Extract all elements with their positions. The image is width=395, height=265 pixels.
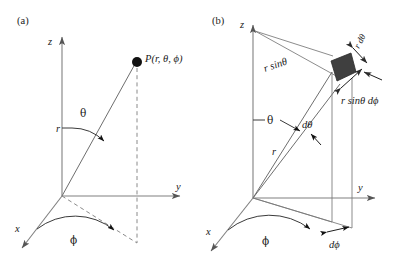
panel-a-theta-arc: [72, 128, 104, 141]
panel-a-z-axis-label: z: [47, 36, 52, 47]
panel-b-surface-patch: [331, 53, 356, 81]
panel-b-radius-label: r: [272, 146, 277, 157]
panel-b-dtheta-label: dθ: [302, 119, 312, 130]
panel-b-r-dtheta-label: r dθ: [352, 32, 368, 50]
panel-a-radius-label: r: [56, 123, 61, 134]
panel-b-z-axis-label: z: [239, 19, 244, 30]
panel-b-rsin-theta-label: r sinθ: [262, 56, 288, 74]
panel-b-x-axis: [211, 198, 253, 251]
panel-b-label: (b): [212, 15, 225, 27]
panel-a-phi-arc: [37, 216, 114, 230]
panel-b-dphi-arrow: [327, 227, 349, 232]
panel-b-radius-line-2: [253, 84, 340, 198]
panel-a-theta-label: θ: [80, 107, 86, 119]
panel-a-x-axis-label: x: [14, 223, 20, 234]
panel-a-label: (a): [17, 15, 29, 27]
figure-canvas: (a) z y x r P(r, θ, ϕ) θ: [0, 0, 395, 265]
panel-b-dphi-label: dϕ: [329, 239, 340, 250]
panel-b: (b) z y x r sinθ r: [205, 15, 382, 251]
panel-b-x-axis-label: x: [205, 226, 211, 237]
panel-a-phi-label: ϕ: [70, 234, 77, 246]
panel-a: (a) z y x r P(r, θ, ϕ) θ: [14, 15, 183, 248]
panel-a-y-axis-label: y: [175, 181, 181, 192]
panel-b-y-axis-label: y: [357, 182, 363, 193]
panel-b-rsin-dphi-label: r sinθ dϕ: [341, 95, 379, 106]
panel-b-phi-label: ϕ: [262, 235, 269, 247]
panel-a-x-axis: [22, 196, 62, 248]
spherical-coordinates-figure: (a) z y x r P(r, θ, ϕ) θ: [0, 0, 395, 265]
panel-a-point-P-marker: [132, 57, 142, 67]
panel-b-radius-line-1: [253, 72, 332, 198]
panel-b-theta-leader: [280, 120, 300, 131]
panel-a-point-P-label: P(r, θ, ϕ): [144, 53, 183, 65]
panel-b-phi-arc: [228, 215, 310, 230]
panel-b-rsin-dphi-leader: [364, 72, 382, 80]
panel-b-dtheta-leader: [311, 134, 321, 145]
panel-b-theta-label: θ: [267, 114, 273, 126]
panel-a-radius-line: [62, 64, 135, 196]
